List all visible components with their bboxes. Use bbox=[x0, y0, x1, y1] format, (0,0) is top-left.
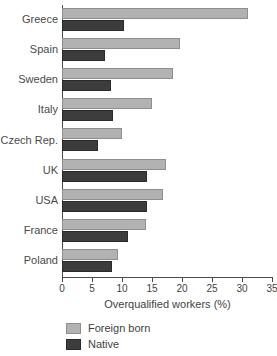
bar-group bbox=[62, 247, 272, 277]
x-axis-tick-label: 20 bbox=[170, 283, 194, 294]
category-label: Spain bbox=[0, 43, 58, 55]
category-label: USA bbox=[0, 194, 58, 206]
bar-group bbox=[62, 36, 272, 66]
bar-group bbox=[62, 217, 272, 247]
x-axis-tick bbox=[152, 277, 153, 282]
x-axis-tick-label: 35 bbox=[260, 283, 277, 294]
category-label: Czech Rep. bbox=[0, 134, 58, 146]
x-axis-tick-label: 30 bbox=[230, 283, 254, 294]
bar-group bbox=[62, 187, 272, 217]
x-axis-tick bbox=[122, 277, 123, 282]
plot-area bbox=[62, 6, 272, 277]
category-label: France bbox=[0, 224, 58, 236]
bar-foreign-born bbox=[62, 219, 146, 230]
bar-native bbox=[62, 231, 128, 242]
x-axis-tick-label: 0 bbox=[50, 283, 74, 294]
bar-group bbox=[62, 157, 272, 187]
x-axis-tick bbox=[212, 277, 213, 282]
bar-native bbox=[62, 261, 112, 272]
bar-native bbox=[62, 171, 147, 182]
category-label: Italy bbox=[0, 103, 58, 115]
overqualified-workers-bar-chart: 05101520253035 GreeceSpainSwedenItalyCze… bbox=[0, 0, 277, 356]
x-axis-tick bbox=[242, 277, 243, 282]
bar-foreign-born bbox=[62, 68, 173, 79]
category-label: Greece bbox=[0, 13, 58, 25]
legend-swatch-native-icon bbox=[66, 339, 81, 350]
x-axis-tick bbox=[272, 277, 273, 282]
legend-label-foreign-born: Foreign born bbox=[88, 322, 150, 334]
x-axis-tick bbox=[92, 277, 93, 282]
legend-label-native: Native bbox=[88, 338, 119, 350]
category-label: Poland bbox=[0, 254, 58, 266]
bar-native bbox=[62, 110, 113, 121]
bar-native bbox=[62, 201, 147, 212]
bar-group bbox=[62, 66, 272, 96]
x-axis-tick-label: 5 bbox=[80, 283, 104, 294]
bar-foreign-born bbox=[62, 8, 248, 19]
x-axis-tick-label: 25 bbox=[200, 283, 224, 294]
bar-foreign-born bbox=[62, 128, 122, 139]
category-label: Sweden bbox=[0, 73, 58, 85]
bar-native bbox=[62, 20, 124, 31]
bar-group bbox=[62, 126, 272, 156]
x-axis-tick bbox=[182, 277, 183, 282]
bar-foreign-born bbox=[62, 249, 118, 260]
x-axis-tick bbox=[62, 277, 63, 282]
bar-foreign-born bbox=[62, 189, 163, 200]
bar-foreign-born bbox=[62, 38, 180, 49]
bar-foreign-born bbox=[62, 98, 152, 109]
legend-item-foreign-born: Foreign born bbox=[66, 320, 150, 336]
bar-native bbox=[62, 80, 111, 91]
bar-group bbox=[62, 96, 272, 126]
bar-foreign-born bbox=[62, 159, 166, 170]
x-axis-tick-label: 10 bbox=[110, 283, 134, 294]
legend-swatch-foreign-born-icon bbox=[66, 323, 81, 334]
x-axis-tick-label: 15 bbox=[140, 283, 164, 294]
bar-native bbox=[62, 140, 98, 151]
bar-native bbox=[62, 50, 105, 61]
legend-item-native: Native bbox=[66, 336, 150, 352]
x-axis-title: Overqualified workers (%) bbox=[62, 298, 273, 310]
bar-group bbox=[62, 6, 272, 36]
chart-legend: Foreign born Native bbox=[66, 320, 150, 352]
category-label: UK bbox=[0, 164, 58, 176]
